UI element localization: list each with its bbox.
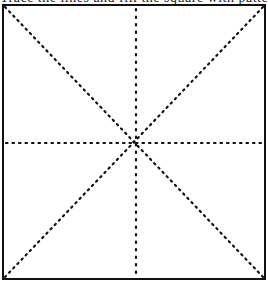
square-diagram bbox=[0, 0, 268, 284]
